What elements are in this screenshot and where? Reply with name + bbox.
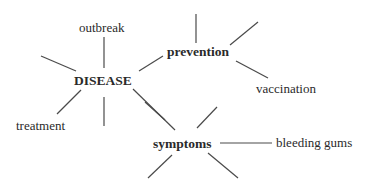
connector-line bbox=[57, 90, 81, 114]
connector-line bbox=[148, 155, 172, 178]
node-symptoms: symptoms bbox=[153, 137, 212, 151]
node-bleeding-gums: bleeding gums bbox=[276, 136, 352, 149]
connector-line bbox=[139, 56, 163, 71]
connector-line bbox=[236, 61, 268, 78]
connector-line bbox=[145, 102, 165, 120]
node-outbreak: outbreak bbox=[79, 21, 124, 34]
connector-line bbox=[208, 153, 238, 178]
node-treatment: treatment bbox=[16, 119, 65, 132]
connector-lines bbox=[0, 0, 376, 193]
node-disease: DISEASE bbox=[74, 74, 132, 88]
word-web-diagram: outbreak DISEASE prevention vaccination … bbox=[0, 0, 376, 193]
connector-line bbox=[197, 107, 217, 128]
connector-line bbox=[41, 56, 76, 71]
connector-line bbox=[230, 22, 258, 45]
node-prevention: prevention bbox=[167, 45, 229, 59]
node-vaccination: vaccination bbox=[256, 82, 316, 95]
